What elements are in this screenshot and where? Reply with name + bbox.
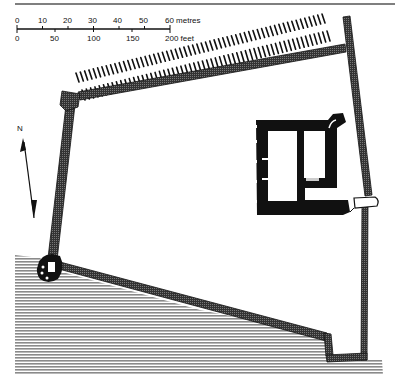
scale-ft-0: 0: [15, 34, 20, 43]
scale-ft-150: 150: [126, 34, 140, 43]
scale-ft-200: 200 feet: [165, 34, 195, 43]
nw-tower: [60, 91, 80, 111]
sw-round-tower: [37, 254, 63, 282]
scale-bar: 0 10 20 30 40 50 60 metres 0 50 100 150 …: [15, 16, 201, 43]
north-label: N: [17, 124, 23, 133]
scale-m-10: 10: [38, 16, 47, 25]
tower-house: [255, 113, 350, 215]
north-arrow-head-icon: [20, 138, 26, 152]
scale-m-40: 40: [113, 16, 122, 25]
scale-m-0: 0: [15, 16, 20, 25]
scale-m-50: 50: [139, 16, 148, 25]
north-arrow: N: [17, 124, 37, 218]
castle-plan: 0 10 20 30 40 50 60 metres 0 50 100 150 …: [0, 0, 399, 387]
scale-m-20: 20: [63, 16, 72, 25]
scale-m-60: 60 metres: [165, 16, 201, 25]
scale-ft-100: 100: [87, 34, 101, 43]
scale-ft-50: 50: [50, 34, 59, 43]
scale-m-30: 30: [88, 16, 97, 25]
